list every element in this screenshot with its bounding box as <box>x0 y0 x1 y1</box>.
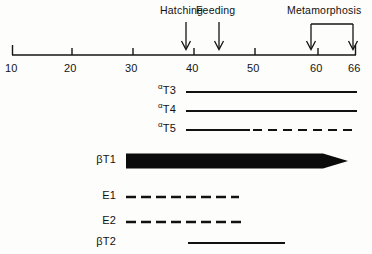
developmental-timeline-figure: Hatching Feeding Metamorphosis 10 20 30 … <box>0 0 372 254</box>
hatching-arrow-icon <box>182 22 191 50</box>
metamorphosis-bracket-icon <box>307 24 358 50</box>
bar-beta-t1-arrow <box>126 154 348 169</box>
feeding-arrow-icon <box>215 22 224 50</box>
figure-graphics <box>0 0 372 254</box>
